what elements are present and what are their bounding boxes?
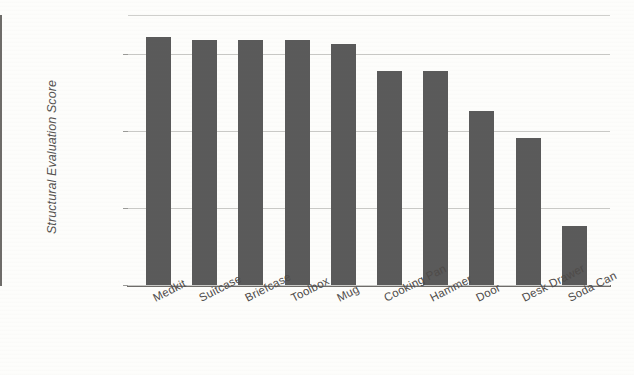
y-axis-title: Structural Evaluation Score — [45, 37, 59, 277]
bar — [238, 40, 263, 285]
y-tick-mark — [123, 131, 128, 132]
y-tick-mark — [123, 208, 128, 209]
plot-top-border — [128, 15, 610, 16]
y-tick-mark — [123, 285, 128, 286]
bar — [469, 111, 494, 285]
bar — [285, 40, 310, 285]
bar — [377, 71, 402, 285]
bar — [516, 138, 541, 285]
bar-chart: Structural Evaluation Score 2.82.933.1 M… — [0, 0, 634, 375]
bar — [423, 71, 448, 285]
bar — [146, 37, 171, 285]
bar — [331, 44, 356, 285]
bar — [192, 40, 217, 285]
y-axis-line — [0, 15, 2, 286]
y-tick-mark — [123, 54, 128, 55]
plot-area — [128, 15, 610, 285]
